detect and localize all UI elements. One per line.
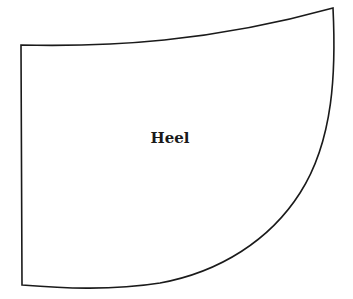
heel-pattern-shape [0,0,353,299]
shape-label: Heel [120,129,220,147]
heel-outline [21,8,334,288]
